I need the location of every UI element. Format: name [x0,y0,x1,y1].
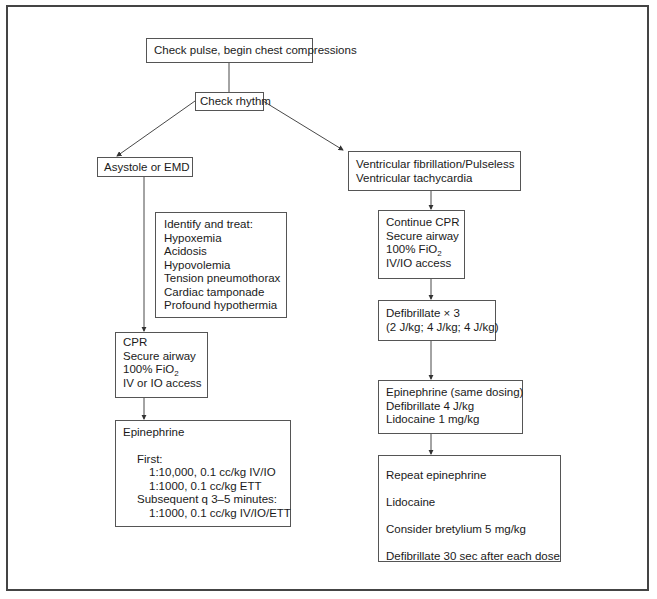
epinephrine-same-box: Epinephrine (same dosing) Defibrillate 4… [378,380,523,434]
dose-line: 1:1000, 0.1 cc/kg IV/IO/ETT [123,507,283,521]
dose-line: 1:10,000, 0.1 cc/kg IV/IO [123,466,283,480]
epinephrine-title: Epinephrine [123,426,283,440]
asystole-box: Asystole or EMD [97,157,193,177]
identify-heading: Identify and treat: [164,218,278,232]
epinephrine-box: Epinephrine First: 1:10,000, 0.1 cc/kg I… [115,420,291,527]
fio2-line: 100% FiO2 [386,243,457,257]
cause-item: Cardiac tamponade [164,286,278,300]
defib-line: Defibrillate × 3 [386,307,488,321]
cpr-box: CPR Secure airway 100% FiO2 IV or IO acc… [115,332,208,398]
step-line: Defibrillate 30 sec after each dose [386,543,553,570]
continue-cpr-box: Continue CPR Secure airway 100% FiO2 IV/… [378,210,465,279]
cause-item: Tension pneumothorax [164,272,278,286]
cpr-line: Continue CPR [386,216,457,230]
start-label: Check pulse, begin chest compressions [154,44,305,58]
subsequent-dose-label: Subsequent q 3–5 minutes: [123,493,283,507]
dose-line: 1:1000, 0.1 cc/kg ETT [123,480,283,494]
cpr-line: IV or IO access [123,377,200,391]
vfib-line: Ventricular tachycardia [356,172,513,186]
fio2-line: 100% FiO2 [123,363,200,377]
step-line: Repeat epinephrine [386,462,553,489]
defib-line: (2 J/kg; 4 J/kg; 4 J/kg) [386,321,488,335]
first-dose-label: First: [123,453,283,467]
start-box: Check pulse, begin chest compressions [146,38,313,63]
asystole-label: Asystole or EMD [104,161,186,175]
cause-item: Hypoxemia [164,232,278,246]
cpr-line: IV/IO access [386,257,457,271]
repeat-box: Repeat epinephrine Lidocaine Consider br… [378,455,561,562]
cpr-line: Secure airway [123,350,200,364]
identify-treat-box: Identify and treat: Hypoxemia Acidosis H… [155,212,287,318]
step-line: Epinephrine (same dosing) [386,386,515,400]
step-line: Defibrillate 4 J/kg [386,400,515,414]
cause-item: Profound hypothermia [164,299,278,313]
check-rhythm-box: Check rhythm [195,92,264,111]
cause-item: Acidosis [164,245,278,259]
vfib-line: Ventricular fibrillation/Pulseless [356,158,513,172]
cause-item: Hypovolemia [164,259,278,273]
check-rhythm-label: Check rhythm [200,95,259,109]
step-line: Lidocaine [386,489,553,516]
cpr-line: Secure airway [386,230,457,244]
step-line: Consider bretylium 5 mg/kg [386,516,553,543]
cpr-line: CPR [123,336,200,350]
vfib-box: Ventricular fibrillation/Pulseless Ventr… [348,151,521,191]
defibrillate-box: Defibrillate × 3 (2 J/kg; 4 J/kg; 4 J/kg… [378,300,496,341]
step-line: Lidocaine 1 mg/kg [386,413,515,427]
